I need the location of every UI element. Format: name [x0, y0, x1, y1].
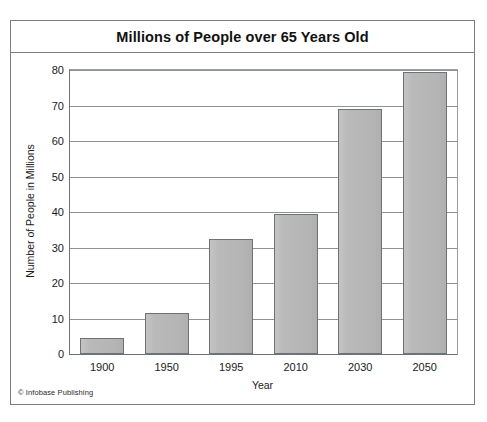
figure-frame: Millions of People over 65 Years Old Num… — [10, 20, 475, 405]
y-tick-label: 60 — [52, 135, 64, 147]
plot-area: 01020304050607080 1900195019952010203020… — [69, 69, 458, 355]
x-tick-label-1950: 1950 — [135, 361, 200, 373]
y-tick-label: 80 — [52, 64, 64, 76]
bar-1995[interactable] — [209, 239, 253, 354]
x-tick-label-1995: 1995 — [199, 361, 264, 373]
y-tick-label: 20 — [52, 277, 64, 289]
y-axis-label: Number of People in Millions — [24, 131, 36, 291]
bar-2030[interactable] — [338, 109, 382, 354]
chart-body: Number of People in Millions 01020304050… — [11, 53, 474, 404]
y-tick-label: 70 — [52, 100, 64, 112]
y-tick-label: 10 — [52, 313, 64, 325]
bar-slot — [403, 70, 447, 354]
bar-2050[interactable] — [403, 72, 447, 354]
bar-1900[interactable] — [80, 338, 124, 354]
bar-1950[interactable] — [145, 313, 189, 354]
x-tick-label-2010: 2010 — [264, 361, 329, 373]
bar-slot — [80, 70, 124, 354]
bar-slot — [338, 70, 382, 354]
x-axis-label: Year — [69, 379, 456, 391]
chart-title: Millions of People over 65 Years Old — [116, 29, 368, 45]
x-tick-label-2030: 2030 — [328, 361, 393, 373]
y-tick-label: 40 — [52, 206, 64, 218]
x-tick-label-2050: 2050 — [393, 361, 458, 373]
bars-layer: 190019501995201020302050 — [70, 70, 457, 354]
x-tick-label-1900: 1900 — [70, 361, 135, 373]
y-tick-label: 50 — [52, 171, 64, 183]
bar-slot — [274, 70, 318, 354]
bar-slot — [145, 70, 189, 354]
y-tick-label: 30 — [52, 242, 64, 254]
bar-2010[interactable] — [274, 214, 318, 354]
y-tick-label: 0 — [58, 348, 64, 360]
title-band: Millions of People over 65 Years Old — [11, 21, 474, 53]
publisher-credit: © Infobase Publishing — [18, 388, 93, 397]
bar-slot — [209, 70, 253, 354]
